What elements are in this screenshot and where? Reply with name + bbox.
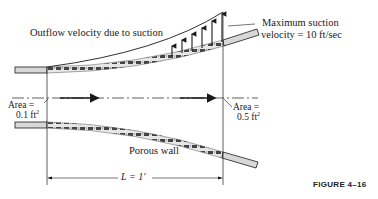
upper-inlet-pipe [15, 67, 47, 73]
max-suction-leader [228, 24, 255, 26]
max-suction-label-line2: velocity = 10 ft/sec [261, 30, 342, 41]
length-arrow-right [218, 177, 223, 180]
porous-wall-label: Porous wall [129, 146, 179, 157]
inlet-area-leader [44, 99, 48, 103]
velocity-profile-curve [47, 12, 223, 67]
upper-outlet-pipe [223, 29, 259, 46]
outlet-area-label-line2: 0.5 ft2 [237, 113, 260, 123]
outlet-area-value: 0.5 ft [237, 112, 257, 122]
inlet-area-value: 0.1 ft [16, 110, 36, 120]
outlet-area-exponent: 2 [257, 111, 260, 117]
inlet-area-exponent: 2 [36, 109, 39, 115]
max-suction-label-line1: Maximum suction [262, 18, 339, 29]
inlet-area-label-line2: 0.1 ft2 [16, 111, 39, 121]
figure-caption: FIGURE 4–16 [313, 180, 367, 189]
upper-porous-wall [47, 40, 224, 73]
lower-outlet-pipe [222, 152, 258, 168]
length-arrow-left [47, 177, 52, 180]
outlet-area-leader [224, 99, 232, 107]
outflow-velocity-label: Outflow velocity due to suction [30, 28, 163, 39]
length-label: L = 1′ [121, 172, 145, 182]
lower-inlet-pipe [15, 122, 47, 128]
